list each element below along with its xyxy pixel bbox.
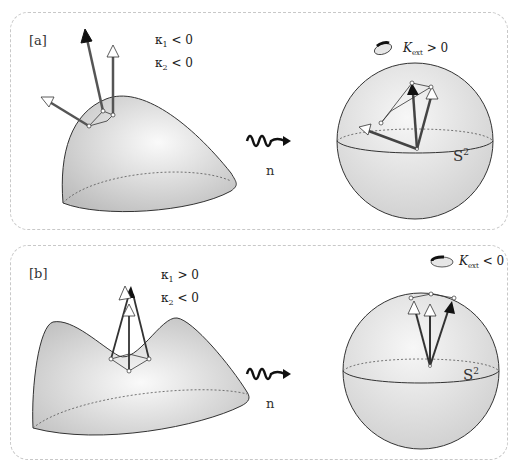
map-arrowhead: [283, 136, 291, 146]
gaussian-curvature-label-b: Kext < 0: [459, 254, 504, 270]
surface-normals-a: [41, 29, 119, 128]
curvature-labels-b: κ1 > 0 κ2 < 0: [161, 266, 199, 313]
gaussian-curvature-label-a: Kext > 0: [403, 41, 448, 57]
k2-label-a: κ2 < 0: [155, 54, 193, 77]
dome-surface: [62, 96, 236, 212]
gauss-map-arrow: [247, 136, 285, 146]
arrowhead-light: [107, 45, 119, 57]
curvature-labels-a: κ1 < 0 κ2 < 0: [155, 31, 193, 78]
k1-label-a: κ1 < 0: [155, 31, 193, 54]
map-label-a: n: [266, 163, 274, 178]
unit-sphere-a: [337, 63, 493, 219]
gauss-map-arrow: [247, 369, 285, 379]
orientation-reversed-icon: [431, 257, 453, 267]
panel-b: [b]: [10, 245, 508, 460]
sphere-label-a: S2: [453, 147, 469, 165]
panel-b-graphics: [11, 246, 507, 459]
k1-label-b: κ1 > 0: [161, 266, 199, 289]
arrowhead-dark: [81, 29, 92, 43]
map-label-b: n: [266, 396, 274, 411]
saddle-surface: [33, 318, 249, 435]
orientation-preserved-icon: [373, 41, 393, 57]
sphere-label-b: S2: [463, 366, 479, 384]
arrowhead-light: [41, 97, 54, 107]
map-arrowhead: [283, 369, 291, 379]
k2-label-b: κ2 < 0: [161, 289, 199, 312]
panel-a: [a]: [10, 12, 508, 230]
